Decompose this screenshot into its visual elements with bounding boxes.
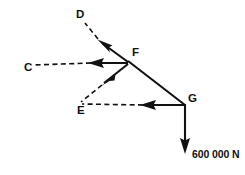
node-label-c: C xyxy=(24,61,32,73)
node-label-e: E xyxy=(77,104,85,116)
member-fd-arrowhead xyxy=(98,40,113,53)
member-fd xyxy=(85,23,128,62)
member-fc-dashed xyxy=(33,63,91,65)
member-fe-dashed xyxy=(81,85,102,102)
node-label-d: D xyxy=(76,8,84,20)
load-vector-g xyxy=(180,104,190,154)
force-diagram-canvas: D C F E G 600 000 N xyxy=(0,0,245,175)
node-label-f: F xyxy=(132,46,139,58)
member-fc xyxy=(33,58,128,68)
load-magnitude-label: 600 000 N xyxy=(192,148,240,160)
member-fg-solid xyxy=(128,61,185,105)
member-fe xyxy=(81,64,128,102)
force-diagram-container: D C F E G 600 000 N xyxy=(0,0,245,175)
member-fd-dashed xyxy=(85,23,98,39)
member-fg xyxy=(128,61,185,105)
member-fe-solid xyxy=(104,64,128,83)
member-fe-arrowhead xyxy=(101,75,116,87)
node-label-g: G xyxy=(188,92,197,104)
member-ge-dashed xyxy=(82,104,143,105)
member-ge xyxy=(82,100,185,110)
